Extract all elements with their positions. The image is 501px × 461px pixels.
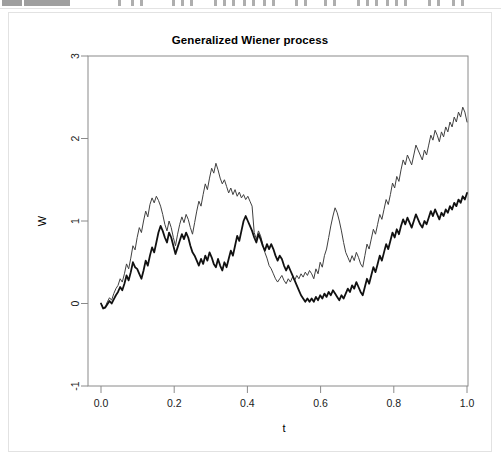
toolbar-text-fragment <box>232 0 235 6</box>
toolbar-text-fragment <box>140 0 143 6</box>
toolbar-text-fragment <box>252 0 255 6</box>
toolbar-text-fragment <box>395 0 398 6</box>
toolbar-text-fragment <box>223 0 226 6</box>
y-axis-tick-label: 1 <box>69 218 81 224</box>
toolbar-divider <box>0 8 501 9</box>
x-axis-tick-label: 0.4 <box>240 397 255 409</box>
y-axis-tick-label: 3 <box>69 53 81 59</box>
x-axis-tick-label: 0.0 <box>94 397 109 409</box>
toolbar-text-fragment <box>295 0 298 6</box>
toolbar-block <box>24 0 70 6</box>
toolbar-text-fragment <box>272 0 275 6</box>
toolbar-text-fragment <box>172 0 175 6</box>
chart-axes: 0.00.20.40.60.81.0-10123 <box>69 53 474 409</box>
toolbar-text-fragment <box>243 0 246 6</box>
toolbar-text-fragment <box>357 0 360 6</box>
x-axis-tick-label: 0.6 <box>313 397 328 409</box>
y-axis-tick-label: -1 <box>69 381 81 390</box>
toolbar-text-fragment <box>366 0 369 6</box>
toolbar-text-fragment <box>214 0 217 6</box>
toolbar-block <box>2 0 22 6</box>
wiener-process-chart: 0.00.20.40.60.81.0-10123 tW <box>9 13 491 451</box>
toolbar-text-fragment <box>428 0 431 6</box>
toolbar-text-fragment <box>263 0 266 6</box>
plot-frame <box>88 56 468 386</box>
toolbar-text-fragment <box>324 0 327 6</box>
x-axis-tick-label: 0.2 <box>167 397 182 409</box>
y-axis-title: W <box>36 215 48 226</box>
x-axis-tick-label: 1.0 <box>460 397 475 409</box>
toolbar-text-fragment <box>404 0 407 6</box>
toolbar-text-fragment <box>375 0 378 6</box>
y-axis-tick-label: 0 <box>69 300 81 306</box>
plot-card: Generalized Wiener process 0.00.20.40.60… <box>8 12 492 452</box>
series-line-upper-path <box>101 107 467 307</box>
toolbar-text-fragment <box>452 0 455 6</box>
toolbar-text-fragment <box>131 0 134 6</box>
toolbar-text-fragment <box>190 0 193 6</box>
toolbar-text-fragment <box>181 0 184 6</box>
toolbar-text-fragment <box>333 0 336 6</box>
y-axis-tick-label: 2 <box>69 135 81 141</box>
x-axis-tick-label: 0.8 <box>386 397 401 409</box>
x-axis-title: t <box>282 422 285 434</box>
toolbar-text-fragment <box>386 0 389 6</box>
toolbar-text-fragment <box>461 0 464 6</box>
toolbar-text-fragment <box>118 0 121 6</box>
toolbar-text-fragment <box>304 0 307 6</box>
r-graphics-device: Generalized Wiener process 0.00.20.40.60… <box>9 13 491 451</box>
toolbar-text-fragment <box>437 0 440 6</box>
series-line-lower-path <box>101 193 467 309</box>
chart-series <box>101 107 467 308</box>
app-toolbar-strip <box>0 0 501 9</box>
